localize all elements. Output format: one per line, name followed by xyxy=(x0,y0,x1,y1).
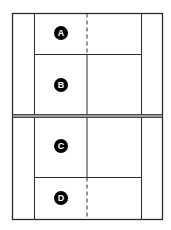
zone-label-d: D xyxy=(54,191,68,205)
zone-label-a: A xyxy=(54,26,68,40)
zone-label-c: C xyxy=(54,139,68,153)
zone-label-b: B xyxy=(54,78,68,92)
court-diagram xyxy=(0,0,171,230)
net xyxy=(13,115,163,118)
